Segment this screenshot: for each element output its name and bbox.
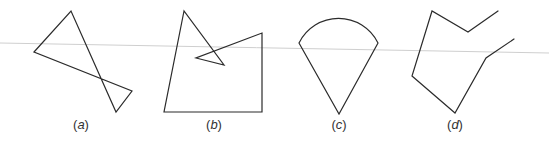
label-c-close: ) [342, 117, 346, 132]
polyline-d-open [412, 11, 514, 113]
label-b-close: ) [218, 117, 222, 132]
label-b: (b) [206, 117, 222, 132]
label-a-close: ) [85, 117, 89, 132]
label-a: (a) [73, 117, 89, 132]
label-d: (d) [447, 117, 463, 132]
label-b-letter: b [210, 117, 217, 132]
label-c: (c) [331, 117, 346, 132]
polygon-a-bowtie [34, 11, 132, 112]
label-d-close: ) [459, 117, 463, 132]
polygon-b-spike [164, 11, 262, 112]
shape-c-cone [299, 18, 378, 114]
faint-scan-line [0, 43, 549, 53]
label-d-letter: d [451, 117, 458, 132]
label-a-letter: a [77, 117, 84, 132]
